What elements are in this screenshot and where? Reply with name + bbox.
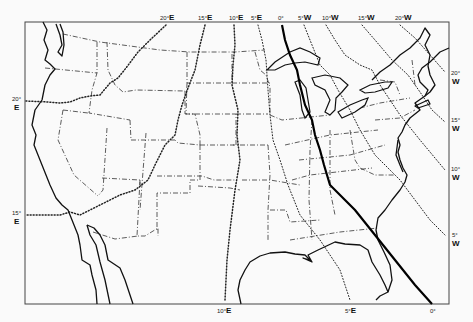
label-bottom-10e: 10°E [217,306,232,315]
label-right-5w-deg: 5° [452,232,458,238]
isogonic-20e [26,25,166,103]
label-right-20w-dir: W [452,77,460,86]
label-left-15e-dir: E [14,217,20,226]
isogonic-lines [26,25,445,300]
label-right-10w-deg: 10° [451,166,461,172]
isogonic-10w [326,25,445,170]
left-labels: 20° E 15° E [12,96,22,226]
label-top-10w: 10°W [322,13,339,22]
right-labels: 20° W 15° W 10° W 5° W [451,70,461,248]
label-top-5e: 5°E [251,13,263,22]
label-left-15e-deg: 15° [12,210,22,216]
agonic-line-0deg [282,25,432,304]
label-top-15e: 15°E [198,13,213,22]
label-top-15w: 15°W [358,13,375,22]
label-left-20e-deg: 20° [12,96,22,102]
coastlines [32,22,449,304]
label-right-5w-dir: W [452,239,460,248]
label-bottom-5e: 5°E [345,306,357,315]
isogonic-map: 20°E 15°E 10°E 5°E 0° 5°W 10°W 15°W 20°W… [0,0,473,322]
label-top-5w: 5°W [298,13,312,22]
lake-erie [338,98,368,118]
label-top-20w: 20°W [395,13,412,22]
great-lakes [267,48,392,118]
isogonic-10e [225,25,240,300]
label-right-15w-deg: 15° [451,117,461,123]
state-borders [45,34,415,240]
lake-superior [267,48,320,70]
map-frame [25,22,449,304]
label-right-15w-dir: W [452,124,460,133]
label-top-0: 0° [278,15,284,21]
lake-ontario [360,82,392,93]
isogonic-15w [362,25,445,122]
isogonic-15e [26,25,205,215]
label-top-10e: 10°E [229,13,244,22]
label-right-20w-deg: 20° [451,70,461,76]
label-top-20e: 20°E [160,13,175,22]
label-bottom-0: 0° [430,308,436,314]
top-labels: 20°E 15°E 10°E 5°E 0° 5°W 10°W 15°W 20°W [160,13,412,22]
label-left-20e-dir: E [14,103,20,112]
label-right-10w-dir: W [452,173,460,182]
bottom-labels: 10°E 5°E 0° [217,306,436,315]
